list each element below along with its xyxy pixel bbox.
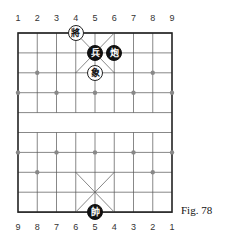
piece-black: 帥 bbox=[87, 204, 103, 220]
file-label-top: 2 bbox=[31, 13, 43, 23]
file-label-top: 5 bbox=[89, 13, 101, 23]
piece-white: 將 bbox=[68, 25, 84, 41]
file-label-bottom: 6 bbox=[70, 222, 82, 232]
file-label-top: 8 bbox=[147, 13, 159, 23]
file-label-bottom: 9 bbox=[12, 222, 24, 232]
file-label-top: 7 bbox=[128, 13, 140, 23]
file-label-bottom: 5 bbox=[89, 222, 101, 232]
figure-label: Fig. 78 bbox=[181, 204, 212, 216]
file-label-top: 1 bbox=[12, 13, 24, 23]
piece-black: 兵 bbox=[87, 45, 103, 61]
file-label-bottom: 4 bbox=[108, 222, 120, 232]
file-label-bottom: 1 bbox=[166, 222, 178, 232]
piece-white: 象 bbox=[87, 65, 103, 81]
file-label-bottom: 3 bbox=[128, 222, 140, 232]
file-label-top: 9 bbox=[166, 13, 178, 23]
file-label-bottom: 7 bbox=[51, 222, 63, 232]
file-label-bottom: 2 bbox=[147, 222, 159, 232]
file-label-top: 4 bbox=[70, 13, 82, 23]
xiangqi-diagram: 123456789987654321 將兵炮象帥 Fig. 78 bbox=[0, 0, 227, 242]
file-label-top: 3 bbox=[51, 13, 63, 23]
file-label-top: 6 bbox=[108, 13, 120, 23]
file-label-bottom: 8 bbox=[31, 222, 43, 232]
